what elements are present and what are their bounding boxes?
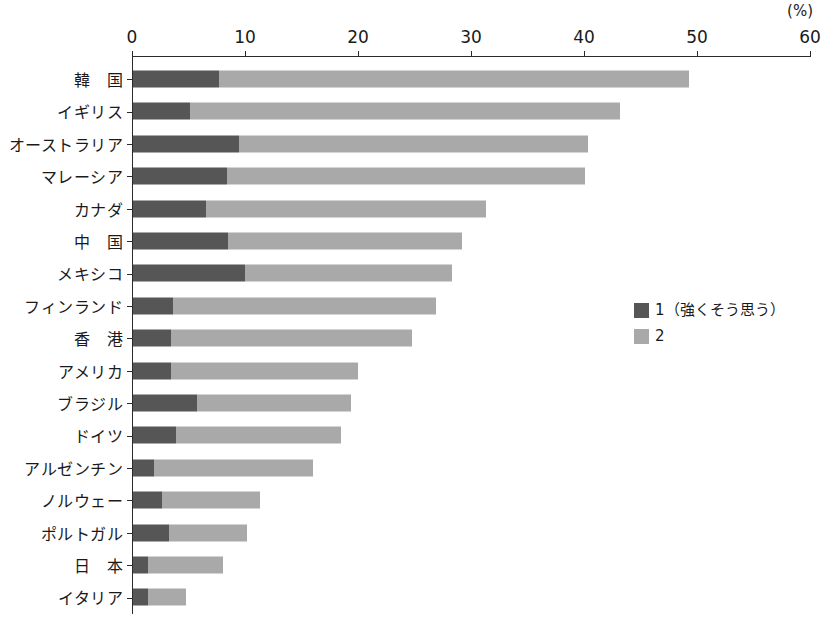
stacked-bar — [133, 135, 588, 152]
bar-segment-series-2 — [162, 492, 259, 509]
stacked-bar — [133, 330, 412, 347]
bar-row: アメリカ — [132, 355, 810, 387]
category-label: マレーシア — [41, 164, 124, 188]
bar-segment-series-1 — [133, 395, 197, 412]
bar-segment-series-1 — [133, 168, 227, 185]
bar-segment-series-1 — [133, 589, 148, 606]
stacked-bar — [133, 265, 452, 282]
stacked-bar — [133, 524, 247, 541]
bar-segment-series-2 — [171, 330, 412, 347]
x-tick-30 — [471, 51, 472, 57]
bar-segment-series-1 — [133, 524, 169, 541]
legend-item-1: 1（強くそう思う） — [634, 303, 785, 318]
bar-row: 中 国 — [132, 225, 810, 257]
bar-segment-series-2 — [148, 589, 186, 606]
bar-segment-series-2 — [176, 427, 341, 444]
legend-label-2: 2 — [655, 329, 665, 344]
category-label: イギリス — [57, 99, 123, 123]
dark-swatch-icon — [634, 303, 649, 318]
stacked-bar — [133, 168, 585, 185]
stacked-bar — [133, 71, 689, 88]
legend-label-1: 1（強くそう思う） — [655, 303, 785, 318]
bar-segment-series-1 — [133, 103, 190, 120]
bar-segment-series-1 — [133, 557, 148, 574]
x-tick-60 — [810, 51, 811, 57]
category-label: ドイツ — [74, 423, 124, 447]
bar-segment-series-1 — [133, 330, 171, 347]
bar-row: アルゼンチン — [132, 452, 810, 484]
legend-item-2: 2 — [634, 329, 785, 344]
bar-row: メキシコ — [132, 257, 810, 289]
x-tick-label-30: 30 — [460, 27, 482, 47]
x-tick-label-60: 60 — [799, 27, 821, 47]
stacked-bar — [133, 200, 486, 217]
bar-row: ドイツ — [132, 419, 810, 451]
bar-row: オーストラリア — [132, 128, 810, 160]
stacked-bar — [133, 427, 341, 444]
stacked-bar — [133, 233, 462, 250]
bar-row: マレーシア — [132, 160, 810, 192]
bar-row: イタリア — [132, 581, 810, 613]
x-tick-label-40: 40 — [573, 27, 595, 47]
bar-row: ノルウェー — [132, 484, 810, 516]
bar-row: イギリス — [132, 95, 810, 127]
bar-segment-series-1 — [133, 492, 162, 509]
bar-row: カナダ — [132, 193, 810, 225]
bar-segment-series-2 — [173, 297, 436, 314]
category-label: 韓 国 — [74, 67, 124, 91]
bar-segment-series-1 — [133, 362, 171, 379]
category-label: 日 本 — [74, 553, 124, 577]
bar-segment-series-1 — [133, 459, 154, 476]
stacked-bar — [133, 557, 223, 574]
bar-segment-series-2 — [197, 395, 351, 412]
x-tick-0 — [132, 51, 133, 57]
light-swatch-icon — [634, 329, 649, 344]
axis-unit-label: (%) — [787, 2, 813, 20]
bar-row: ポルトガル — [132, 517, 810, 549]
bar-row: 韓 国 — [132, 63, 810, 95]
category-label: ブラジル — [57, 391, 123, 415]
x-tick-50 — [697, 51, 698, 57]
stacked-bar — [133, 395, 351, 412]
bar-segment-series-2 — [239, 135, 588, 152]
category-label: 中 国 — [74, 229, 124, 253]
x-tick-10 — [245, 51, 246, 57]
stacked-bar — [133, 492, 260, 509]
stacked-bar — [133, 103, 620, 120]
x-tick-label-10: 10 — [234, 27, 256, 47]
horizontal-stacked-bar-chart: (%) 0102030405060 韓 国イギリスオーストラリアマレーシアカナダ… — [0, 0, 827, 628]
category-label: 香 港 — [74, 326, 124, 350]
bar-segment-series-2 — [148, 557, 224, 574]
category-label: ノルウェー — [41, 488, 124, 512]
category-label: イタリア — [58, 585, 123, 609]
bar-segment-series-1 — [133, 71, 219, 88]
category-label: ポルトガル — [41, 521, 124, 545]
x-tick-label-0: 0 — [127, 27, 138, 47]
bar-segment-series-2 — [245, 265, 452, 282]
bar-segment-series-1 — [133, 427, 176, 444]
category-label: アルゼンチン — [24, 456, 123, 480]
bar-segment-series-1 — [133, 265, 245, 282]
stacked-bar — [133, 362, 358, 379]
stacked-bar — [133, 589, 186, 606]
bar-segment-series-2 — [227, 168, 585, 185]
bar-segment-series-2 — [219, 71, 689, 88]
category-label: オーストラリア — [9, 132, 124, 156]
bar-row: 日 本 — [132, 549, 810, 581]
bar-segment-series-2 — [190, 103, 621, 120]
bar-segment-series-2 — [171, 362, 357, 379]
bar-segment-series-1 — [133, 297, 173, 314]
bar-segment-series-2 — [169, 524, 247, 541]
x-tick-40 — [584, 51, 585, 57]
bar-segment-series-1 — [133, 233, 228, 250]
x-tick-label-50: 50 — [686, 27, 708, 47]
stacked-bar — [133, 297, 436, 314]
bar-segment-series-2 — [154, 459, 312, 476]
bar-segment-series-1 — [133, 200, 206, 217]
stacked-bar — [133, 459, 313, 476]
bar-row: ブラジル — [132, 387, 810, 419]
category-label: カナダ — [74, 197, 124, 221]
category-label: メキシコ — [57, 261, 123, 285]
bar-segment-series-2 — [228, 233, 462, 250]
x-tick-label-20: 20 — [347, 27, 369, 47]
